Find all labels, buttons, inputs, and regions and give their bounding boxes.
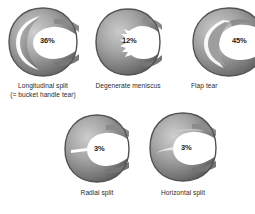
figure-radial-split: 3% Radial split <box>63 112 131 184</box>
percent-label-flap: 45% <box>232 37 246 45</box>
meniscus-illustration-longitudinal: 36% <box>6 6 80 78</box>
caption-line-2: (= bucket handle tear) <box>10 91 75 100</box>
caption-line-1: Longitudinal split <box>10 82 75 91</box>
figure-flap-tear: 45% Flap tear <box>189 6 255 78</box>
caption-line-1: Degenerate meniscus <box>95 82 160 91</box>
meniscus-illustration-degenerate: 12% <box>93 7 163 77</box>
percent-label-horizontal: 3% <box>181 144 191 152</box>
caption-line-1: Flap tear <box>191 82 217 91</box>
figure-horizontal-split: 3% Horizontal split <box>148 110 218 184</box>
percent-label-radial: 3% <box>94 145 104 153</box>
caption-line-1: Radial split <box>81 189 114 198</box>
percent-label-degenerate: 12% <box>122 37 136 45</box>
caption-line-1: Horizontal split <box>161 189 205 198</box>
percent-label-longitudinal: 36% <box>40 37 54 45</box>
meniscus-illustration-flap: 45% <box>189 6 255 78</box>
meniscus-illustration-radial: 3% <box>63 112 131 184</box>
figure-longitudinal-split: 36% Longitudinal split (= bucket handle … <box>6 6 80 78</box>
caption-longitudinal-split: Longitudinal split (= bucket handle tear… <box>10 82 75 99</box>
caption-degenerate-meniscus: Degenerate meniscus <box>95 82 160 91</box>
caption-horizontal-split: Horizontal split <box>161 189 205 198</box>
meniscus-tear-diagram: 36% Longitudinal split (= bucket handle … <box>0 0 255 214</box>
figure-degenerate-meniscus: 12% Degenerate meniscus <box>93 7 163 77</box>
meniscus-illustration-horizontal: 3% <box>148 110 218 184</box>
caption-flap-tear: Flap tear <box>191 82 217 91</box>
caption-radial-split: Radial split <box>81 189 114 198</box>
